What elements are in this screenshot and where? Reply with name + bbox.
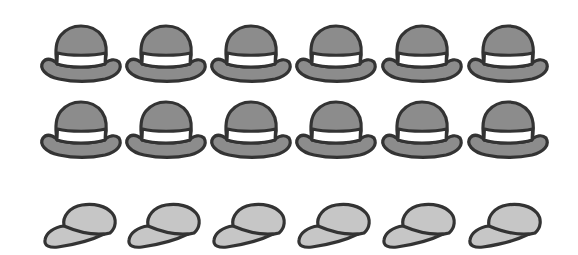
- bowler-hat-icon: [209, 24, 293, 82]
- baseball-cap-icon: [296, 202, 372, 250]
- baseball-cap-icon: [467, 202, 543, 250]
- bowler-hat-icon: [39, 100, 123, 158]
- baseball-cap-icon: [381, 202, 457, 250]
- bowler-hat-icon: [209, 100, 293, 158]
- bowler-hat-icon: [294, 100, 378, 158]
- bowler-hat-icon: [294, 24, 378, 82]
- bowler-hat-icon: [466, 100, 550, 158]
- bowler-hat-icon: [124, 100, 208, 158]
- baseball-cap-icon: [211, 202, 287, 250]
- bowler-hat-icon: [466, 24, 550, 82]
- bowler-hat-icon: [124, 24, 208, 82]
- bowler-hat-icon: [380, 24, 464, 82]
- baseball-cap-icon: [42, 202, 118, 250]
- bowler-hat-icon: [380, 100, 464, 158]
- bowler-hat-icon: [39, 24, 123, 82]
- baseball-cap-icon: [126, 202, 202, 250]
